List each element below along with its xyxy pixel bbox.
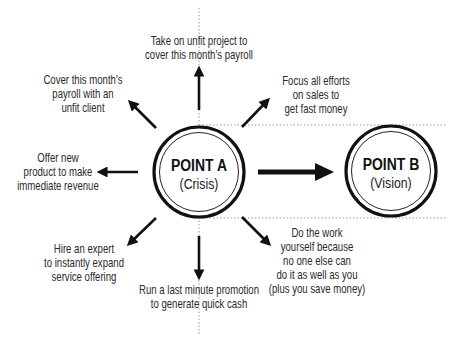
option-left-line: Offer new [37,151,79,164]
option-bottom-right-line: do it as well as you [276,268,357,281]
point-b-subtitle: (Vision) [370,175,411,191]
option-bottom: Run a last minute promotion to generate … [139,283,259,310]
option-top-right: Focus all efforts on sales to get fast m… [282,74,350,115]
option-bottom-left-line: Hire an expert [54,242,114,255]
option-bottom-right-line: no one else can [283,254,351,267]
point-a-circle: POINT A (Crisis) [154,127,244,217]
point-a-title: POINT A [171,156,227,175]
arrow-a-to-b [258,163,334,181]
arrow-up-right-icon [242,101,267,127]
option-left-line: product to make [24,165,93,178]
option-top-right-line: get fast money [285,102,348,115]
option-top-line: Take on unfit project to [151,34,248,47]
option-bottom-right-line: Do the work [291,226,343,239]
option-bottom-right: Do the work yourself because no one else… [269,226,366,295]
option-top-left-line: Cover this month's [43,73,123,86]
option-top-left-line: unfit client [61,101,104,114]
point-b-title: POINT B [363,155,419,174]
option-bottom-left-line: to instantly expand [44,256,124,269]
option-left: Offer new product to make immediate reve… [17,151,99,192]
arrow-up-left-icon [131,103,156,128]
option-left-line: immediate revenue [17,179,99,192]
option-top-left: Cover this month's payroll with an unfit… [43,73,123,114]
arrow-down-left-icon [130,218,156,243]
option-top-right-line: Focus all efforts [282,74,350,87]
option-top-left-line: payroll with an [52,87,113,100]
option-top-line: cover this month's payroll [145,48,253,61]
option-bottom-line: to generate quick cash [151,297,248,310]
arrow-down-right-icon [242,217,268,243]
crisis-vision-diagram: POINT A (Crisis) POINT B (Vision) Take o… [0,0,468,340]
option-bottom-right-line: (plus you save money) [269,282,366,295]
point-b-circle: POINT B (Vision) [346,126,436,216]
point-a-subtitle: (Crisis) [180,176,219,192]
option-bottom-left: Hire an expert to instantly expand servi… [44,242,124,283]
option-bottom-line: Run a last minute promotion [139,283,259,296]
option-bottom-right-line: yourself because [281,240,354,253]
option-top-right-line: on sales to [293,88,339,101]
option-bottom-left-line: service offering [52,270,117,283]
option-top: Take on unfit project to cover this mont… [145,34,253,61]
